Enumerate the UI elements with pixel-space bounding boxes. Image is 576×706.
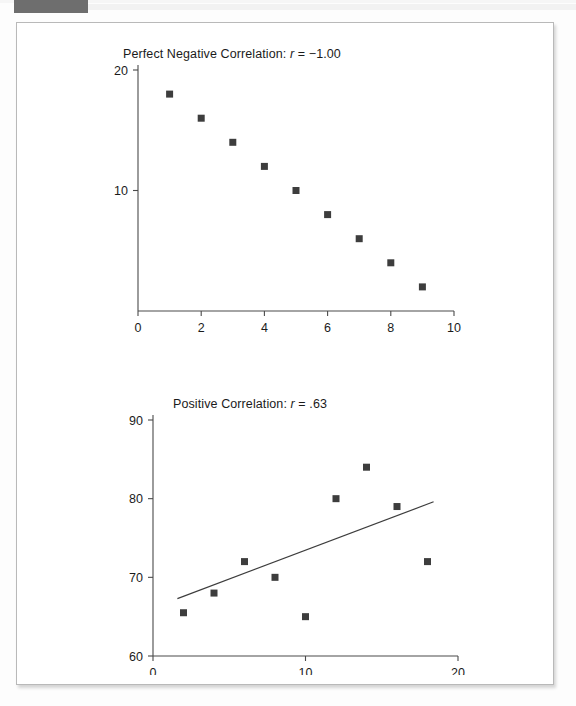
- trendline-segment: [177, 502, 433, 599]
- y-tick-label: 20: [114, 64, 128, 78]
- chart-2-title: Positive Correlation: r = .63: [173, 397, 327, 411]
- data-point-marker: [211, 590, 218, 597]
- chart-1-title-value: = −1.00: [294, 47, 341, 61]
- x-tick-label: 8: [387, 321, 394, 335]
- chart-2-y-ticks: 60708090: [129, 414, 153, 664]
- data-point-marker: [324, 211, 331, 218]
- data-point-marker: [333, 495, 340, 502]
- data-point-marker: [419, 283, 426, 290]
- data-point-marker: [272, 574, 279, 581]
- x-tick-label: 10: [447, 321, 461, 335]
- chart-1-title-prefix: Perfect Negative Correlation:: [123, 47, 290, 61]
- x-tick-label: 10: [299, 666, 313, 675]
- chart-1-data-points: [166, 91, 426, 291]
- chart-1-y-ticks: 1020: [114, 64, 138, 199]
- data-point-marker: [394, 503, 401, 510]
- chart-2-title-prefix: Positive Correlation:: [173, 397, 291, 411]
- chart-perfect-negative-correlation: Perfect Negative Correlation: r = −1.00 …: [17, 23, 555, 343]
- data-point-marker: [180, 609, 187, 616]
- chart-1-x-ticks: 0246810: [135, 311, 461, 335]
- y-tick-label: 10: [114, 184, 128, 198]
- y-tick-label: 80: [129, 492, 143, 506]
- top-rule: [88, 4, 576, 10]
- x-tick-label: 20: [451, 666, 465, 675]
- chart-1-title: Perfect Negative Correlation: r = −1.00: [123, 47, 341, 61]
- y-tick-label: 90: [129, 414, 143, 428]
- data-point-marker: [293, 187, 300, 194]
- corner-tab-marker: [14, 0, 88, 13]
- chart-2-x-ticks: 01020: [150, 656, 465, 675]
- chart-2-trendline: [177, 502, 433, 599]
- data-point-marker: [302, 613, 309, 620]
- x-tick-label: 0: [135, 321, 142, 335]
- chart-positive-correlation: Positive Correlation: r = .63 60708090 0…: [17, 375, 555, 675]
- data-point-marker: [363, 464, 370, 471]
- data-point-marker: [356, 235, 363, 242]
- chart-2-data-points: [180, 464, 431, 620]
- data-point-marker: [241, 558, 248, 565]
- figure-box: Perfect Negative Correlation: r = −1.00 …: [16, 22, 554, 685]
- chart-2-plot-area: 60708090 01020: [17, 375, 555, 675]
- x-tick-label: 6: [324, 321, 331, 335]
- data-point-marker: [261, 163, 268, 170]
- data-point-marker: [229, 139, 236, 146]
- x-tick-label: 2: [198, 321, 205, 335]
- x-tick-label: 4: [261, 321, 268, 335]
- chart-2-title-value: = .63: [295, 397, 327, 411]
- data-point-marker: [166, 91, 173, 98]
- x-tick-label: 0: [150, 666, 157, 675]
- y-tick-label: 70: [129, 571, 143, 585]
- data-point-marker: [198, 115, 205, 122]
- y-tick-label: 60: [129, 650, 143, 664]
- data-point-marker: [424, 558, 431, 565]
- data-point-marker: [387, 259, 394, 266]
- chart-1-plot-area: 1020 0246810: [17, 23, 555, 343]
